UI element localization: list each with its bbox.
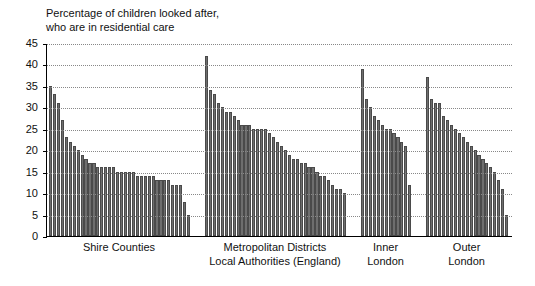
y-tick-mark [43,237,47,238]
bar [280,146,283,236]
bar [205,56,208,236]
bar [187,215,190,236]
bar [331,185,334,236]
gridline [47,216,512,217]
bar [454,129,457,236]
bar [209,90,212,236]
y-tick-label: 15 [16,166,38,178]
bar [458,133,461,236]
y-tick-label: 10 [16,187,38,199]
bar [323,176,326,236]
bar [315,172,318,236]
bar [300,163,303,236]
bar [100,167,103,236]
bar [77,150,80,236]
bar [175,185,178,236]
bar [167,180,170,236]
y-tick-mark [43,65,47,66]
bar [252,129,255,236]
y-tick-label: 45 [16,37,38,49]
bar [450,125,453,237]
bar [144,176,147,236]
bar [256,129,259,236]
bar [240,125,243,237]
bar [481,159,484,236]
bar [61,120,64,236]
y-tick-mark [43,44,47,45]
bar [124,172,127,236]
bar [501,189,504,236]
bar [264,129,267,236]
bar [446,120,449,236]
y-tick-mark [43,216,47,217]
bar [505,215,508,236]
bar [466,142,469,236]
x-axis-caption: Local Authorities (England) [185,255,365,267]
bar [237,120,240,236]
y-tick-label: 35 [16,80,38,92]
chart-title: Percentage of children looked after, who… [46,6,219,34]
bar [392,133,395,236]
bar [159,180,162,236]
y-tick-mark [43,87,47,88]
bar [474,150,477,236]
bar [244,125,247,237]
bar [148,176,151,236]
bar [96,167,99,236]
bar [233,116,236,236]
gridline [47,194,512,195]
group-labels: Shire CountiesMetropolitan DistrictsInne… [46,240,512,280]
bar [307,167,310,236]
y-tick-label: 0 [16,230,38,242]
bar [155,180,158,236]
bar [108,167,111,236]
bar [426,77,429,236]
bar [493,172,496,236]
gridline [47,65,512,66]
bar [400,142,403,236]
bar [84,159,87,236]
bar [497,180,500,236]
bar [335,189,338,236]
group-label-outer-london: Outer London [397,240,535,268]
bar [284,150,287,236]
group-label-shire-counties: Shire Counties [49,240,189,254]
bar [292,159,295,236]
bar [152,176,155,236]
bar [304,163,307,236]
bar [179,185,182,236]
y-tick-mark [43,130,47,131]
bar [339,189,342,236]
bar [373,116,376,236]
bar [248,125,251,237]
bar [128,172,131,236]
gridline [47,130,512,131]
bar [112,167,115,236]
bar [183,202,186,236]
bar [104,167,107,236]
y-axis-labels: 051015202530354045 [14,44,38,237]
bar [116,172,119,236]
chart-root: Percentage of children looked after, who… [0,0,535,286]
bar [389,129,392,236]
bar [73,146,76,236]
y-tick-mark [43,173,47,174]
bar [132,172,135,236]
bars-container [47,44,512,236]
bar [88,163,91,236]
bar [136,176,139,236]
bar [140,176,143,236]
bar [489,167,492,236]
y-tick-mark [43,194,47,195]
bar [485,163,488,236]
y-tick-label: 20 [16,144,38,156]
bar [276,142,279,236]
bar [408,185,411,236]
bar [327,180,330,236]
bar [288,155,291,236]
bar [268,133,271,236]
bar [311,167,314,236]
bar [385,129,388,236]
bar [442,116,445,236]
bar [361,69,364,236]
